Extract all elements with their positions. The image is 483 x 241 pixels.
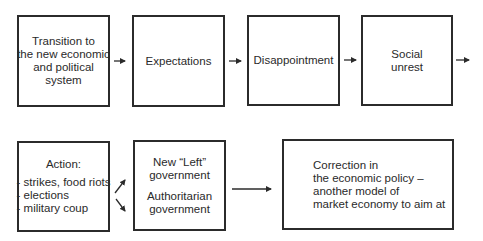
- arrows-layer: [0, 0, 483, 241]
- arrow-up-right-icon: [115, 180, 125, 193]
- arrow-down-right-icon: [116, 199, 125, 211]
